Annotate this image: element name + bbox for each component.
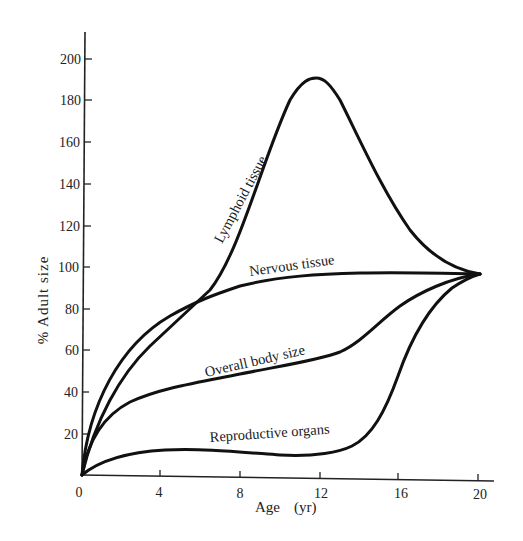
svg-text:200: 200	[60, 52, 81, 67]
x-tick-labels: 0 4 8 12 16 20	[76, 485, 488, 502]
growth-curves-chart: 20 40 60 80 100 120 140 160 180 200 0 4 …	[0, 0, 523, 541]
svg-text:16: 16	[394, 486, 408, 501]
svg-text:40: 40	[64, 385, 78, 400]
svg-text:100: 100	[58, 260, 79, 275]
curve-overall-body-size	[82, 274, 480, 475]
curve-nervous-tissue	[82, 273, 480, 475]
curve-reproductive-organs	[82, 274, 480, 475]
y-axis	[82, 32, 85, 476]
y-tick-labels: 20 40 60 80 100 120 140 160 180 200	[58, 52, 81, 442]
svg-text:20: 20	[64, 427, 78, 442]
curve-lymphoid-tissue	[82, 78, 480, 475]
x-axis-unit: (yr)	[294, 499, 317, 516]
svg-text:160: 160	[59, 135, 80, 150]
svg-text:120: 120	[59, 219, 80, 234]
label-reproductive-organs: Reproductive organs	[209, 421, 330, 445]
x-axis-title: Age	[255, 499, 280, 515]
svg-text:140: 140	[59, 177, 80, 192]
svg-text:0: 0	[76, 485, 83, 500]
svg-text:4: 4	[156, 485, 163, 500]
x-axis	[81, 475, 494, 481]
svg-text:80: 80	[65, 302, 79, 317]
y-axis-title: % Adult size	[35, 256, 51, 345]
svg-text:20: 20	[473, 487, 487, 502]
svg-text:60: 60	[65, 343, 79, 358]
label-overall-body-size: Overall body size	[203, 341, 306, 380]
svg-text:8: 8	[237, 486, 244, 501]
svg-text:180: 180	[60, 93, 81, 108]
